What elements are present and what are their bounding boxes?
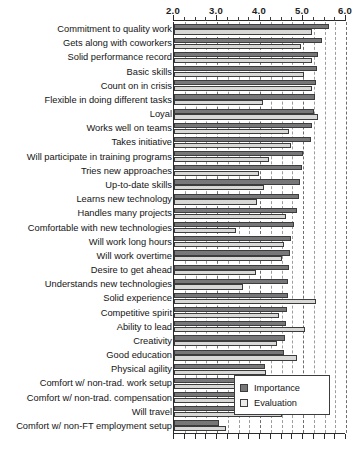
bar-evaluation bbox=[174, 370, 266, 375]
x-axis-bottom-rule bbox=[173, 433, 345, 434]
bar-evaluation bbox=[174, 355, 297, 360]
bar-group bbox=[174, 192, 346, 206]
x-axis-tick-mark-bottom bbox=[248, 434, 249, 439]
x-axis-top-rule bbox=[173, 20, 345, 21]
category-label: Competitive spirit bbox=[101, 308, 172, 318]
x-axis-tick-label: 6.0 bbox=[338, 5, 352, 16]
x-axis-tick-label: 2.0 bbox=[166, 5, 180, 16]
category-label: Will travel bbox=[132, 407, 172, 417]
category-label: Desire to get ahead bbox=[91, 265, 172, 275]
bar-importance bbox=[174, 94, 315, 99]
bar-evaluation bbox=[174, 72, 304, 77]
bar-group bbox=[174, 50, 346, 64]
category-label: Creativity bbox=[133, 336, 172, 346]
x-axis-tick-mark-bottom bbox=[324, 434, 325, 439]
bar-importance bbox=[174, 236, 291, 241]
bar-importance bbox=[174, 222, 294, 227]
bar-group bbox=[174, 249, 346, 263]
bar-importance bbox=[174, 208, 297, 213]
bar-importance bbox=[174, 38, 322, 43]
category-label: Commitment to quality work bbox=[57, 24, 172, 34]
bar-group bbox=[174, 107, 346, 121]
bar-group bbox=[174, 135, 346, 149]
category-label: Solid experience bbox=[103, 293, 172, 303]
x-axis-tick-mark-bottom bbox=[195, 434, 196, 439]
bar-importance bbox=[174, 24, 329, 29]
bar-importance bbox=[174, 66, 317, 71]
category-label: Basic skills bbox=[127, 67, 172, 77]
category-label: Comfortable with new technologies bbox=[28, 223, 172, 233]
x-axis-tick-mark bbox=[324, 17, 325, 21]
x-axis-tick-mark bbox=[238, 17, 239, 21]
x-axis-tick-mark-bottom bbox=[345, 434, 346, 439]
bar-importance bbox=[174, 350, 284, 355]
category-label: Flexible in doing different tasks bbox=[45, 95, 172, 105]
bar-evaluation bbox=[174, 242, 284, 247]
x-axis-tick-mark-bottom bbox=[227, 434, 228, 439]
x-axis-tick-mark-bottom bbox=[216, 434, 217, 439]
x-gridline bbox=[346, 22, 347, 433]
category-label: Tries new approaches bbox=[81, 166, 172, 176]
bar-evaluation bbox=[174, 341, 277, 346]
bar-importance bbox=[174, 335, 285, 340]
bar-importance bbox=[174, 293, 288, 298]
x-axis-tick-mark bbox=[313, 17, 314, 21]
bar-group bbox=[174, 320, 346, 334]
x-axis-tick-mark-bottom bbox=[291, 434, 292, 439]
bar-evaluation bbox=[174, 228, 236, 233]
bar-group bbox=[174, 277, 346, 291]
x-axis-tick-mark bbox=[173, 15, 174, 21]
bar-group bbox=[174, 93, 346, 107]
x-axis-tick-label: 3.0 bbox=[209, 5, 223, 16]
bar-group bbox=[174, 305, 346, 319]
category-label: Count on in crisis bbox=[101, 81, 172, 91]
category-label: Solid performance record bbox=[68, 52, 172, 62]
x-axis-tick-mark bbox=[216, 15, 217, 21]
x-axis-tick-mark-bottom bbox=[184, 434, 185, 439]
x-axis-tick-mark bbox=[248, 17, 249, 21]
bar-importance bbox=[174, 194, 299, 199]
category-label: Comfort w/ non-trad. compensation bbox=[27, 393, 172, 403]
bar-group bbox=[174, 263, 346, 277]
x-axis-tick-mark-bottom bbox=[281, 434, 282, 439]
x-axis-tick-label: 5.0 bbox=[295, 5, 309, 16]
bar-importance bbox=[174, 165, 302, 170]
x-axis-tick-mark-bottom bbox=[334, 434, 335, 439]
category-label: Loyal bbox=[150, 109, 172, 119]
x-axis-tick-mark bbox=[184, 17, 185, 21]
x-axis-tick-mark-bottom bbox=[205, 434, 206, 439]
bar-group bbox=[174, 334, 346, 348]
category-label: Physical agility bbox=[111, 364, 172, 374]
bar-group bbox=[174, 178, 346, 192]
x-axis-tick-mark bbox=[205, 17, 206, 21]
horizontal-grouped-bar-chart: 2.03.04.05.06.0 Commitment to quality wo… bbox=[0, 0, 353, 453]
category-label: Understands new technologies bbox=[45, 279, 172, 289]
x-axis-tick-mark bbox=[334, 17, 335, 21]
bar-importance bbox=[174, 137, 311, 142]
category-label: Will participate in training programs bbox=[27, 152, 172, 162]
bar-group bbox=[174, 150, 346, 164]
bar-evaluation bbox=[174, 327, 305, 332]
x-axis-tick-mark-bottom bbox=[259, 434, 260, 439]
legend-entry-importance: Importance bbox=[240, 380, 324, 395]
x-axis-tick-mark bbox=[195, 17, 196, 21]
bar-evaluation bbox=[174, 214, 286, 219]
bar-group bbox=[174, 348, 346, 362]
bar-evaluation bbox=[174, 284, 243, 289]
bar-group bbox=[174, 206, 346, 220]
plot-area bbox=[173, 22, 346, 433]
importance-swatch-icon bbox=[240, 384, 248, 392]
chart-legend: Importance Evaluation bbox=[234, 375, 330, 415]
bar-evaluation bbox=[174, 58, 312, 63]
bar-evaluation bbox=[174, 270, 256, 275]
bar-importance bbox=[174, 420, 219, 425]
bar-evaluation bbox=[174, 299, 316, 304]
x-axis-tick-mark-bottom bbox=[302, 434, 303, 439]
bar-evaluation bbox=[174, 313, 279, 318]
category-label: Gets along with coworkers bbox=[63, 38, 172, 48]
x-axis-tick-label: 4.0 bbox=[252, 5, 266, 16]
bar-evaluation bbox=[174, 171, 259, 176]
x-axis-tick-mark bbox=[291, 17, 292, 21]
legend-entry-evaluation: Evaluation bbox=[240, 395, 324, 410]
bar-importance bbox=[174, 80, 316, 85]
